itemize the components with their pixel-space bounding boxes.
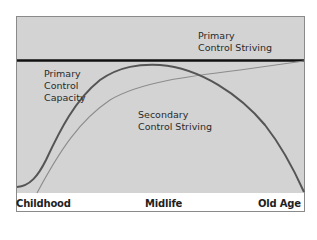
axis-label-childhood: Childhood [16,198,71,209]
axis-label-old-age: Old Age [258,198,301,209]
primary-control-capacity-label: Primary Control Capacity [44,68,86,104]
axis-label-midlife: Midlife [145,198,182,209]
secondary-control-striving-label: Secondary Control Striving [138,109,212,133]
primary-control-striving-label: Primary Control Striving [198,30,272,54]
